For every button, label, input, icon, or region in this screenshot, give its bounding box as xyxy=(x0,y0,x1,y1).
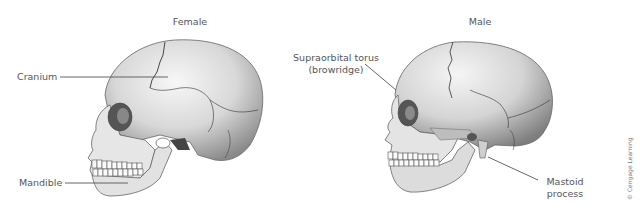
male-skull xyxy=(385,42,552,192)
male-title: Male xyxy=(455,16,505,28)
supraorbital-torus-label-line1: Supraorbital torus xyxy=(286,52,386,64)
supraorbital-torus-label: Supraorbital torus (browridge) xyxy=(286,52,386,76)
mastoid-process-label: Mastoid process xyxy=(540,176,590,200)
supraorbital-torus-label-line2: (browridge) xyxy=(286,64,386,76)
female-skull xyxy=(88,40,263,196)
mandible-label: Mandible xyxy=(19,177,62,189)
female-title: Female xyxy=(160,16,220,28)
mastoid-process-label-line1: Mastoid xyxy=(540,176,590,188)
mastoid-leader-line xyxy=(488,157,538,180)
mastoid-process-label-line2: process xyxy=(540,188,590,200)
copyright-credit: © Cengage Learning xyxy=(626,137,633,200)
cranium-label: Cranium xyxy=(17,71,57,83)
